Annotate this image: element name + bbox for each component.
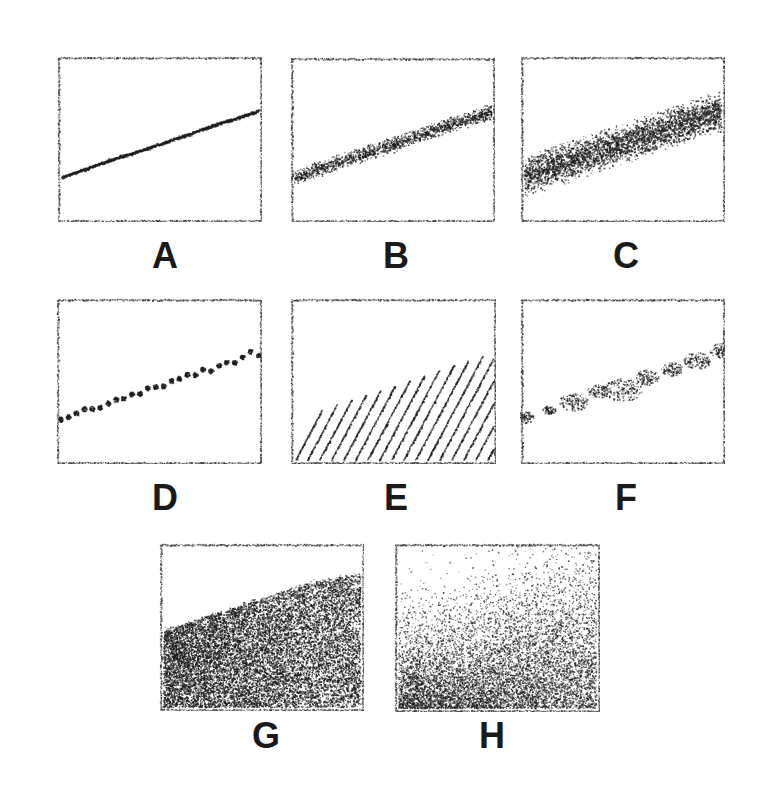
panel-d-plot — [56, 298, 262, 464]
panel-b — [290, 57, 495, 222]
panel-c-plot — [520, 56, 725, 222]
panel-f-plot — [520, 298, 725, 464]
panel-g-plot — [159, 543, 364, 711]
panel-h — [394, 543, 600, 712]
panel-d — [56, 298, 262, 464]
panel-e-plot — [290, 298, 496, 464]
panel-a-label: A — [135, 238, 195, 274]
panel-h-plot — [394, 543, 600, 712]
panel-a — [57, 56, 262, 222]
panel-g — [159, 543, 364, 711]
panel-a-plot — [57, 56, 262, 222]
figure-root: ABCDEFGH — [0, 0, 765, 792]
panel-d-label: D — [135, 480, 195, 516]
panel-c — [520, 56, 725, 222]
panel-h-label: H — [462, 718, 522, 754]
panel-b-label: B — [366, 238, 426, 274]
panel-e — [290, 298, 496, 464]
panel-c-label: C — [596, 238, 656, 274]
panel-f — [520, 298, 725, 464]
panel-f-label: F — [596, 480, 656, 516]
panel-g-label: G — [236, 718, 296, 754]
panel-b-plot — [290, 57, 495, 222]
panel-e-label: E — [366, 480, 426, 516]
